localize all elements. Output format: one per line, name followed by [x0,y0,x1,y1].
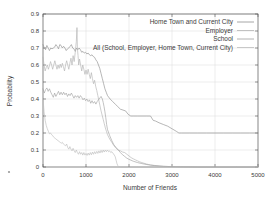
plot-canvas: 00.10.20.30.40.50.60.70.80.9 01000200030… [0,0,272,197]
series-line [43,45,258,133]
x-tick-label: 4000 [208,172,222,178]
page-artifact-dot [8,171,10,173]
y-tick-label: 0 [36,164,40,170]
legend-label: Employer [206,27,234,35]
x-tick-label: 1000 [79,172,93,178]
x-tick-label: 2000 [122,172,136,178]
y-axis-title: Probability [6,75,14,106]
y-tick-labels: 00.10.20.30.40.50.60.70.80.9 [31,11,40,170]
series-line [43,88,258,167]
y-tick-label: 0.6 [31,62,40,68]
y-tick-label: 0.2 [31,130,40,136]
x-tick-labels: 010002000300040005000 [41,172,265,178]
y-tick-label: 0.4 [31,96,40,102]
x-axis-title: Number of Friends [123,184,178,191]
y-tick-label: 0.7 [31,45,40,51]
chart-figure: 00.10.20.30.40.50.60.70.80.9 01000200030… [0,0,272,197]
y-tick-label: 0.1 [31,147,40,153]
x-tick-label: 5000 [251,172,265,178]
y-tick-label: 0.9 [31,11,40,17]
x-tick-label: 0 [41,172,45,178]
legend-label: Home Town and Current City [150,18,234,26]
legend-label: School [213,35,233,42]
y-tick-label: 0.5 [31,79,40,85]
legend: Home Town and Current CityEmployerSchool… [93,18,254,52]
legend-label: All (School, Employer, Home Town, Curren… [93,44,233,52]
y-tick-label: 0.3 [31,113,40,119]
y-tick-label: 0.8 [31,28,40,34]
x-tick-label: 3000 [165,172,179,178]
